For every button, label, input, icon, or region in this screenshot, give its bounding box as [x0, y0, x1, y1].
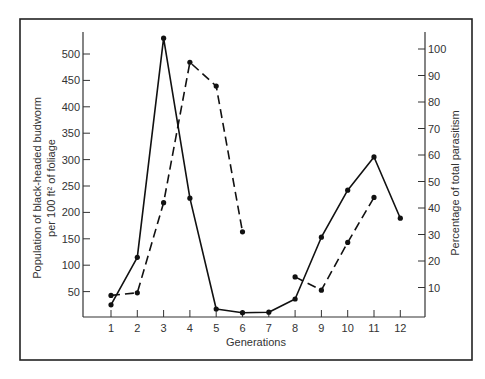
y-tick-label: 400	[62, 101, 80, 113]
parasitism-line-point	[345, 240, 350, 245]
x-tick-label: 12	[394, 322, 406, 334]
x-tick-label: 11	[368, 322, 379, 334]
y-tick-label: 50	[68, 286, 80, 298]
y2-tick-label: 100	[428, 43, 446, 55]
y-axis-title-line2: per 100 ft² of foliage	[45, 139, 57, 237]
x-tick-label: 4	[187, 322, 193, 334]
population-line-point	[266, 310, 271, 315]
x-tick-label: 5	[213, 322, 219, 334]
x-tick-label: 6	[239, 322, 245, 334]
y-tick-label: 450	[62, 74, 80, 86]
axis-labels: Generations Population of black-headed b…	[31, 97, 461, 348]
y2-tick-label: 80	[428, 96, 440, 108]
y-axis-title-line1: Population of black-headed budworm	[31, 97, 43, 279]
population-line-point	[371, 154, 376, 159]
x-tick-label: 10	[342, 322, 354, 334]
x-tick-label: 1	[108, 322, 114, 334]
parasitism-line-point	[293, 274, 298, 279]
population-line-point	[293, 296, 298, 301]
population-line-point	[108, 302, 113, 307]
x-tick-label: 2	[134, 322, 140, 334]
parasitism-line-point	[371, 195, 376, 200]
chart: 5010015020025030035040045050010203040506…	[0, 0, 485, 379]
x-tick-label: 9	[318, 322, 324, 334]
plot-area	[108, 36, 403, 316]
population-line-point	[161, 36, 166, 41]
y-tick-label: 150	[62, 233, 80, 245]
x-tick-label: 7	[266, 322, 272, 334]
x-tick-label: 3	[161, 322, 167, 334]
y2-tick-label: 90	[428, 70, 440, 82]
chart-frame	[20, 19, 472, 360]
y-tick-label: 350	[62, 127, 80, 139]
parasitism-line	[295, 197, 374, 290]
parasitism-line-point	[135, 290, 140, 295]
population-line-point	[135, 255, 140, 260]
parasitism-line-point	[187, 60, 192, 65]
parasitism-line-point	[161, 200, 166, 205]
population-line-point	[187, 196, 192, 201]
parasitism-line-point	[214, 84, 219, 89]
parasitism-line-point	[319, 288, 324, 293]
y2-axis-title: Percentage of total parasitism	[449, 110, 461, 256]
y2-tick-label: 30	[428, 229, 440, 241]
y-tick-label: 250	[62, 180, 80, 192]
population-line-point	[345, 188, 350, 193]
y2-tick-label: 10	[428, 282, 440, 294]
y-tick-label: 500	[62, 48, 80, 60]
y-tick-label: 100	[62, 259, 80, 271]
x-axis-title: Generations	[226, 336, 286, 348]
y2-tick-label: 70	[428, 123, 440, 135]
population-line-point	[398, 216, 403, 221]
y2-tick-label: 20	[428, 255, 440, 267]
y2-tick-label: 60	[428, 149, 440, 161]
y-tick-label: 200	[62, 206, 80, 218]
parasitism-line	[111, 62, 243, 295]
population-line-point	[214, 306, 219, 311]
parasitism-line-point	[240, 229, 245, 234]
population-line-point	[319, 235, 324, 240]
y2-tick-label: 40	[428, 202, 440, 214]
y-tick-label: 300	[62, 154, 80, 166]
population-line-point	[240, 310, 245, 315]
population-line	[111, 38, 400, 313]
parasitism-line-point	[108, 293, 113, 298]
y2-tick-label: 50	[428, 176, 440, 188]
x-tick-label: 8	[292, 322, 298, 334]
